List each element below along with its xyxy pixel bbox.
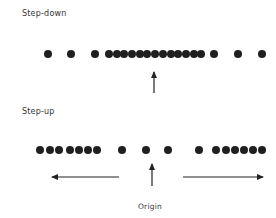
- origin-label: Origin: [138, 202, 162, 211]
- arrows-layer: [0, 0, 276, 218]
